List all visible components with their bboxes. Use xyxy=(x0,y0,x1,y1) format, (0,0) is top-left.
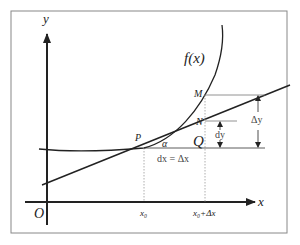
x0-plus-dx-tick-label: x₀+Δx xyxy=(192,208,215,218)
origin-label: O xyxy=(34,206,44,221)
x-axis-label: x xyxy=(257,194,264,209)
point-M-label: M xyxy=(193,88,203,99)
point-Q-label: Q xyxy=(193,133,204,149)
dx-equals-label: dx = Δx xyxy=(157,153,189,164)
y-axis-label: y xyxy=(41,11,49,26)
point-N-label: N xyxy=(195,116,204,127)
tangent-line xyxy=(42,85,290,185)
curve-label: f(x) xyxy=(184,50,205,67)
differential-diagram: y x O f(x) P M N Q α dx = Δx dy Δy x₀ x₀… xyxy=(0,0,300,245)
delta-y-label: Δy xyxy=(251,114,262,125)
angle-alpha-label: α xyxy=(162,138,168,149)
x0-tick-label: x₀ xyxy=(139,208,147,218)
point-P-label: P xyxy=(134,132,141,143)
figure-frame xyxy=(11,11,287,233)
dy-label: dy xyxy=(215,129,225,140)
